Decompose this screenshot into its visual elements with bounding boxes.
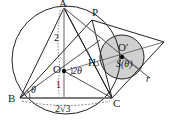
- label-O-prime: O′: [118, 42, 128, 53]
- label-B: B: [8, 93, 15, 104]
- label-radius: r: [146, 74, 150, 84]
- label-angle-2theta: 2θ: [72, 66, 82, 76]
- label-length-1: 1: [56, 80, 61, 90]
- geometry-diagram: A P B C O H O′ 2 1 2√3 θ 2θ S(θ) r: [0, 0, 172, 130]
- label-angle-theta: θ: [31, 85, 36, 95]
- label-H: H: [88, 57, 96, 68]
- label-C: C: [113, 98, 120, 109]
- label-A: A: [59, 0, 67, 9]
- diagram-canvas: [0, 0, 172, 130]
- point-O: [62, 69, 66, 73]
- label-P: P: [92, 7, 98, 18]
- label-O: O: [53, 64, 61, 75]
- label-length-base: 2√3: [55, 104, 71, 114]
- label-length-2: 2: [54, 33, 59, 43]
- label-area: S(θ): [116, 59, 133, 69]
